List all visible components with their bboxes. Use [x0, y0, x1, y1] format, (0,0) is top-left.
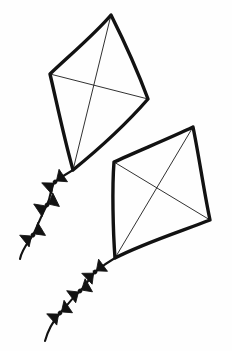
lower-kite-horizontal-spar — [114, 162, 210, 220]
bow-3 — [20, 223, 47, 248]
kites-illustration — [0, 0, 232, 351]
lower-kite — [113, 127, 210, 258]
artboard — [0, 0, 232, 351]
upper-tail — [20, 169, 73, 259]
lower-kite-vertical-spar — [115, 127, 193, 258]
upper-kite-frame — [50, 15, 148, 170]
lower-tail — [45, 258, 115, 341]
bow-2-right-wing — [45, 193, 60, 211]
upper-kite — [50, 15, 148, 170]
bow-2-left-wing — [34, 199, 49, 217]
bow-1 — [42, 169, 69, 194]
bow-5-left-wing — [67, 286, 83, 304]
upper-tail-bows — [20, 169, 69, 247]
bow-2 — [34, 193, 61, 217]
upper-kite-horizontal-spar — [50, 74, 148, 99]
lower-kite-frame — [113, 127, 210, 258]
lower-tail-bows — [47, 259, 109, 325]
upper-kite-vertical-spar — [73, 15, 111, 170]
bow-6 — [47, 300, 74, 325]
